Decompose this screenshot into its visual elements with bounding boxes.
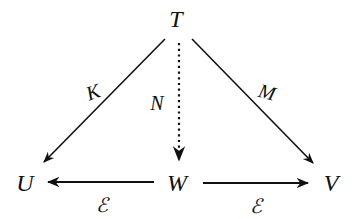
edge-label-n: N bbox=[150, 93, 163, 113]
edge-label-e-right: ℰ bbox=[250, 196, 262, 216]
arrow-t-to-u bbox=[44, 39, 165, 162]
node-v: V bbox=[324, 171, 339, 195]
node-w: W bbox=[167, 171, 187, 195]
node-t: T bbox=[169, 7, 182, 31]
node-u: U bbox=[16, 171, 33, 195]
edge-label-e-left: ℰ bbox=[96, 195, 108, 215]
arrow-t-to-v bbox=[192, 39, 313, 163]
